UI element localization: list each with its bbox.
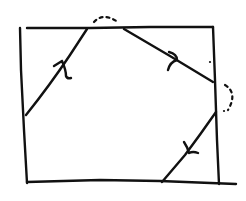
rectangle-bottom-edge: [27, 180, 236, 184]
diagram-canvas: [0, 0, 246, 201]
path-segment-2: [124, 29, 213, 82]
dashed-jump-right: [225, 85, 232, 110]
dashed-jump-top: [94, 17, 118, 22]
path-segment-3: [162, 112, 216, 182]
rectangle-right-edge: [213, 27, 219, 184]
rectangle-left-edge: [20, 28, 27, 183]
stray-dot: [223, 110, 225, 112]
reflection-path-diagram: [0, 0, 246, 201]
rectangle-top-edge: [27, 27, 213, 28]
stray-dot: [209, 61, 211, 63]
path-segment-1: [26, 29, 87, 115]
